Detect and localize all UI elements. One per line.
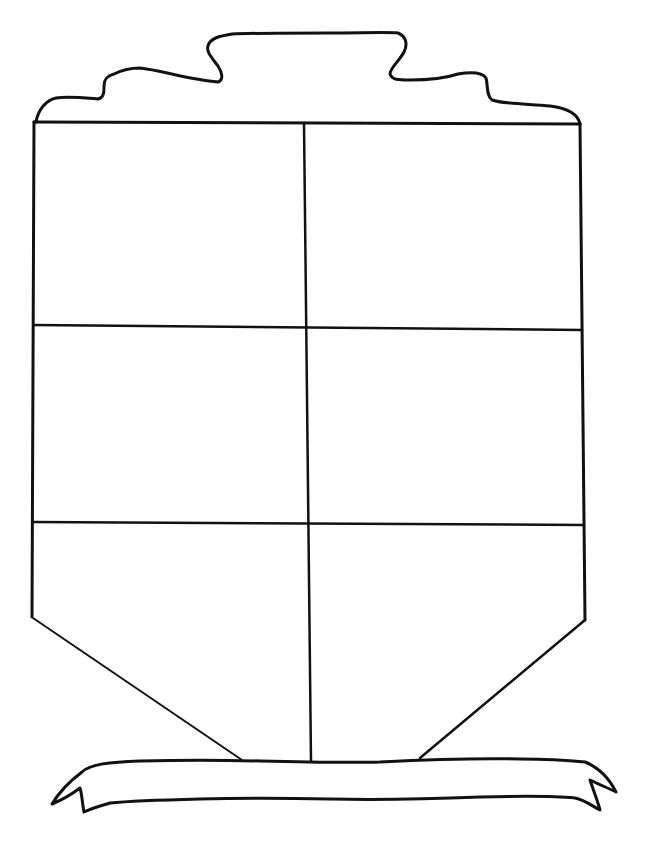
shield-bottom-right-chamfer bbox=[420, 620, 585, 758]
shield-left-edge bbox=[32, 122, 34, 617]
shield-right-edge bbox=[580, 124, 585, 620]
shield-bottom-left-chamfer bbox=[33, 618, 242, 760]
shield-row-divider-2 bbox=[33, 522, 584, 525]
shield-top-line bbox=[34, 122, 580, 124]
coat-of-arms-drawing bbox=[0, 0, 653, 844]
banner-outline bbox=[52, 759, 616, 812]
shield-center-divider bbox=[304, 123, 311, 761]
shield-row-divider-1 bbox=[34, 325, 582, 330]
crest-outline bbox=[36, 33, 580, 124]
coat-of-arms-template bbox=[0, 0, 653, 844]
